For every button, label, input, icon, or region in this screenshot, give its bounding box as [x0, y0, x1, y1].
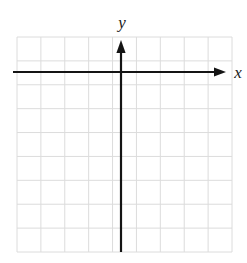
x-axis	[13, 67, 226, 76]
y-axis-arrowhead-icon	[116, 40, 125, 53]
y-axis-label: y	[116, 13, 126, 32]
grid-lines	[17, 37, 232, 252]
coordinate-plane-figure: x y	[0, 0, 247, 263]
coordinate-plane-svg: x y	[0, 0, 247, 263]
x-axis-arrowhead-icon	[214, 67, 226, 76]
x-axis-label: x	[233, 63, 242, 82]
